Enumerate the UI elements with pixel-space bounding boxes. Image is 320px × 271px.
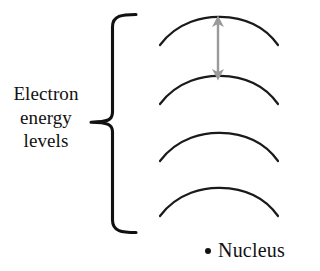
energy-levels-label-line-1: Electron	[0, 82, 92, 106]
nucleus-dot-icon	[205, 248, 211, 254]
nucleus-label: Nucleus	[218, 239, 285, 262]
curly-brace	[91, 15, 136, 233]
nucleus-label-group: Nucleus	[205, 239, 285, 262]
energy-level-arc-4	[160, 188, 278, 216]
energy-transition-arrow	[212, 16, 224, 81]
energy-level-arc-3	[160, 133, 278, 161]
energy-levels-label-line-2: energy	[0, 106, 92, 130]
energy-levels-label: Electron energy levels	[0, 82, 92, 153]
diagram-canvas: Electron energy levels Nucleus	[0, 0, 320, 271]
energy-level-arc-2	[160, 76, 278, 104]
energy-levels-label-line-3: levels	[0, 129, 92, 153]
